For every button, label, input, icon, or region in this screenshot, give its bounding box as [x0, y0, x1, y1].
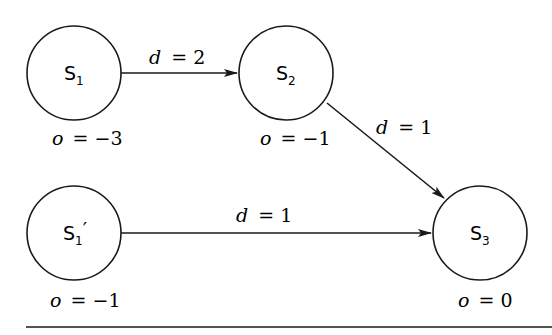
edge-s2-s3: d = 1	[327, 103, 444, 198]
edge-s1p-s3-var: d	[236, 204, 248, 226]
svg-text:d = 2: d = 2	[149, 46, 205, 68]
state-diagram: d = 2 d = 1 d = 1 S1 o = −3 S2	[0, 0, 552, 335]
node-s3-base: S	[470, 222, 482, 244]
node-s1-o-var: o	[52, 127, 63, 149]
node-s2-o-var: o	[260, 127, 271, 149]
node-s2-o-val: = −1	[281, 127, 331, 149]
node-s1-o-val: = −3	[73, 127, 123, 149]
node-s2-sub: 2	[288, 74, 296, 88]
edge-s1-s2-val: = 2	[171, 46, 205, 68]
node-s1p-o-val: = −1	[71, 289, 121, 311]
node-s1: S1 o = −3	[27, 26, 122, 149]
edge-s2-s3-var: d	[376, 116, 388, 138]
svg-text:o = −3: o = −3	[52, 127, 122, 149]
svg-text:o = −1: o = −1	[260, 127, 330, 149]
node-s3-o-val: = 0	[479, 289, 513, 311]
edge-s2-s3-val: = 1	[398, 116, 432, 138]
node-s3: S3 o = 0	[433, 186, 527, 311]
node-s2-base: S	[276, 62, 288, 84]
node-s1-prime: S1′ o = −1	[27, 186, 121, 311]
edge-s1-s2-var: d	[149, 46, 161, 68]
node-s1p-prime: ′	[83, 218, 87, 240]
svg-text:d = 1: d = 1	[236, 204, 292, 226]
edge-s1p-s3: d = 1	[121, 204, 431, 233]
svg-text:d = 1: d = 1	[376, 116, 432, 138]
node-s1-sub: 1	[76, 74, 84, 88]
node-s1-base: S	[64, 62, 76, 84]
node-s1p-base: S	[63, 222, 75, 244]
edge-s1-s2: d = 2	[121, 46, 237, 73]
svg-text:o = 0: o = 0	[458, 289, 513, 311]
node-s3-o-var: o	[458, 289, 469, 311]
edge-s1p-s3-val: = 1	[258, 204, 292, 226]
svg-text:o = −1: o = −1	[50, 289, 120, 311]
node-s2: S2 o = −1	[239, 26, 333, 149]
node-s1p-sub: 1	[75, 234, 83, 248]
node-s3-sub: 3	[482, 234, 490, 248]
node-s1p-o-var: o	[50, 289, 61, 311]
